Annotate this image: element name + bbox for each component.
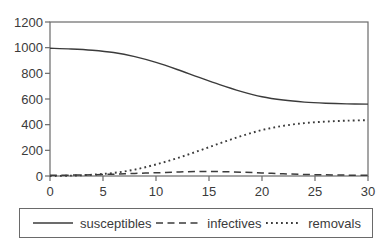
chart-legend: susceptibles infectives removals (19, 208, 373, 238)
y-axis-tick-label: 600 (21, 92, 43, 107)
x-axis-tick-label: 30 (361, 184, 375, 199)
x-axis-tick-label: 20 (255, 184, 269, 199)
y-axis-tick-label: 200 (21, 143, 43, 158)
y-axis-tick-label: 800 (21, 66, 43, 81)
x-axis-tick-label: 10 (149, 184, 163, 199)
y-axis-tick-label: 1200 (14, 15, 43, 30)
legend-item-removals: removals (265, 217, 361, 230)
x-axis-tick-label: 15 (202, 184, 216, 199)
legend-item-infectives: infectives (155, 217, 261, 230)
legend-label-infectives: infectives (207, 217, 261, 230)
x-axis-tick-label: 5 (99, 184, 106, 199)
y-axis-tick-label: 400 (21, 117, 43, 132)
x-axis-tick-label: 0 (46, 184, 53, 199)
sir-model-figure: 020040060080010001200051015202530 suscep… (0, 0, 384, 244)
susceptibles-line (50, 48, 368, 104)
removals-line (50, 120, 368, 176)
chart-canvas: 020040060080010001200051015202530 (0, 0, 384, 206)
legend-label-susceptibles: susceptibles (80, 217, 152, 230)
removals-line-swatch (265, 219, 302, 227)
y-axis-tick-label: 1000 (14, 40, 43, 55)
infectives-line (50, 171, 368, 175)
y-axis-tick-label: 0 (36, 169, 43, 184)
legend-item-susceptibles: susceptibles (32, 217, 152, 230)
plot-border (50, 22, 368, 176)
legend-label-removals: removals (308, 217, 361, 230)
x-axis-tick-label: 25 (308, 184, 322, 199)
infectives-line-swatch (155, 219, 201, 227)
susceptibles-line-swatch (32, 219, 74, 227)
